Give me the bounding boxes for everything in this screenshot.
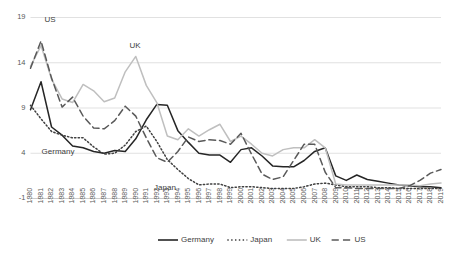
x-tick-label: 1980 [26, 188, 33, 204]
x-tick-label: 1999 [226, 188, 233, 204]
x-tick-label: 1984 [68, 188, 75, 204]
annotation-uk: UK [129, 41, 141, 50]
x-tick-label: 2018 [426, 188, 433, 204]
legend-label-japan: Japan [250, 235, 272, 244]
x-tick-label: 2017 [416, 188, 423, 204]
x-tick-label: 1986 [89, 188, 96, 204]
y-tick-label: 19 [17, 12, 25, 21]
x-tick-label: 1987 [100, 188, 107, 204]
x-axis-tick-labels: 1980198119821983198419851986198719881989… [26, 188, 444, 204]
x-tick-label: 2016 [405, 188, 412, 204]
x-tick-label: 2009 [332, 188, 339, 204]
chart-legend: GermanyJapanUKUS [158, 235, 366, 244]
x-tick-label: 1981 [37, 188, 44, 204]
x-tick-label: 1996 [195, 188, 202, 204]
annotation-us: US [44, 15, 55, 24]
x-tick-label: 2003 [268, 188, 275, 204]
legend-label-uk: UK [310, 235, 322, 244]
y-tick-label: 9 [21, 103, 25, 112]
y-axis-tick-labels: -1491419 [17, 12, 25, 202]
x-tick-label: 1991 [142, 188, 149, 204]
y-tick-label: 4 [21, 148, 25, 157]
x-tick-label: 1989 [121, 188, 128, 204]
gridlines [31, 18, 442, 202]
chart-container: -1491419 1980198119821983198419851986198… [0, 0, 449, 253]
x-tick-label: 1983 [58, 188, 65, 204]
series-lines [31, 41, 442, 189]
x-tick-label: 1998 [216, 188, 223, 204]
inflation-line-chart: -1491419 1980198119821983198419851986198… [0, 0, 449, 253]
series-line-germany [31, 82, 442, 188]
legend-label-us: US [355, 235, 366, 244]
x-tick-label: 1988 [111, 188, 118, 204]
annotation-germany: Germany [42, 147, 75, 156]
x-tick-label: 2000 [237, 188, 244, 204]
x-tick-label: 2012 [363, 188, 370, 204]
y-tick-label: 14 [17, 58, 25, 67]
series-line-us [31, 41, 442, 189]
x-tick-label: 1990 [132, 188, 139, 204]
x-tick-label: 2010 [342, 188, 349, 204]
x-tick-label: 1997 [205, 188, 212, 204]
x-tick-label: 2004 [279, 188, 286, 204]
x-tick-label: 2019 [437, 188, 444, 204]
x-tick-label: 1995 [184, 188, 191, 204]
legend-label-germany: Germany [181, 235, 214, 244]
x-tick-label: 1985 [79, 188, 86, 204]
x-tick-label: 2014 [384, 188, 391, 204]
x-tick-label: 2013 [374, 188, 381, 204]
x-tick-label: 2001 [247, 188, 254, 204]
x-tick-label: 2006 [300, 188, 307, 204]
series-line-uk [31, 46, 442, 186]
x-tick-label: 2011 [353, 188, 360, 203]
x-tick-label: 1982 [47, 188, 54, 204]
series-annotations: USUKGermanyJapan [42, 15, 176, 192]
y-tick-label: -1 [19, 193, 26, 202]
x-tick-label: 2008 [321, 188, 328, 204]
series-line-japan [31, 105, 442, 188]
x-tick-label: 2007 [311, 188, 318, 204]
x-tick-label: 2002 [258, 188, 265, 204]
x-tick-label: 2005 [289, 188, 296, 204]
x-tick-label: 2015 [395, 188, 402, 204]
annotation-japan: Japan [154, 183, 176, 192]
